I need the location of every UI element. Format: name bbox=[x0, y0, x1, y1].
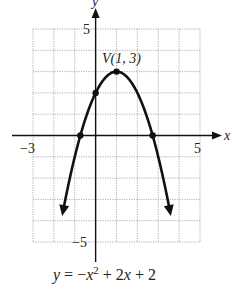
y-max-tick-label: 5 bbox=[83, 22, 90, 37]
y-axis-label: y bbox=[90, 0, 99, 9]
equation-label: y = −x2 + 2x + 2 bbox=[51, 264, 156, 284]
vertex-label: V(1, 3) bbox=[102, 51, 141, 67]
axes bbox=[12, 8, 222, 262]
x-max-tick-label: 5 bbox=[194, 141, 201, 156]
x-axis-label: x bbox=[223, 128, 231, 143]
y-min-tick-label: −5 bbox=[72, 235, 87, 250]
parabola-chart: x y −3 5 5 −5 V(1, 3) y = −x2 + 2x + 2 bbox=[0, 0, 232, 293]
x-min-tick-label: −3 bbox=[20, 141, 35, 156]
